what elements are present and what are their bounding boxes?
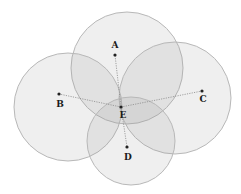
label-b: B: [56, 99, 64, 109]
label-d: D: [124, 152, 132, 162]
label-e: E: [120, 110, 127, 120]
circle-d: [87, 97, 175, 185]
label-c: C: [199, 94, 206, 104]
label-a: A: [111, 40, 120, 50]
point-d: [125, 145, 128, 148]
point-b: [57, 92, 60, 95]
point-a: [113, 53, 116, 56]
circles-diagram: A B C D E: [0, 0, 241, 194]
point-e: [119, 105, 122, 108]
point-c: [200, 89, 203, 92]
